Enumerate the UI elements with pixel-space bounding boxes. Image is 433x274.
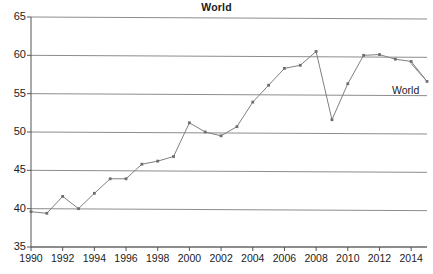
data-point-1994: [93, 192, 96, 195]
y-axis-label-65: 65: [0, 11, 26, 22]
x-axis-label-2006: 2006: [267, 253, 301, 264]
gridline-y-50: [31, 132, 427, 134]
x-axis-label-1994: 1994: [77, 253, 111, 264]
data-point-2013: [394, 58, 397, 61]
gridline-y-65: [31, 17, 427, 19]
data-point-2002: [220, 134, 223, 137]
data-point-1991: [45, 212, 48, 215]
y-axis-label-55: 55: [0, 88, 26, 99]
gridline-y-45: [31, 170, 427, 172]
data-point-2001: [204, 131, 207, 134]
x-axis-label-1992: 1992: [46, 253, 80, 264]
y-axis-label-40: 40: [0, 203, 26, 214]
y-axis-label-50: 50: [0, 126, 26, 137]
data-point-2003: [236, 125, 239, 128]
x-axis-label-2002: 2002: [204, 253, 238, 264]
x-axis-label-2008: 2008: [299, 253, 333, 264]
data-point-2004: [251, 101, 254, 104]
x-tick-marks-group: [31, 247, 411, 251]
x-axis-label-1996: 1996: [109, 253, 143, 264]
x-axis-label-2010: 2010: [331, 253, 365, 264]
x-axis-label-2000: 2000: [172, 253, 206, 264]
data-point-1990: [30, 210, 33, 213]
y-axis-label-45: 45: [0, 164, 26, 175]
chart-container: World 35404550556065 1990199219941996199…: [0, 0, 433, 274]
data-point-2006: [283, 67, 286, 70]
data-point-1993: [77, 207, 80, 210]
data-point-1995: [109, 177, 112, 180]
data-point-1998: [156, 160, 159, 163]
y-axis-label-35: 35: [0, 241, 26, 252]
x-axis-label-1990: 1990: [14, 253, 48, 264]
data-point-2011: [362, 54, 365, 57]
series-label-world: World: [392, 84, 419, 96]
series-label-leader-line: [411, 63, 427, 81]
gridline-y-55: [31, 94, 427, 96]
data-point-2009: [331, 118, 334, 121]
y-axis-label-60: 60: [0, 49, 26, 60]
data-point-1997: [140, 163, 143, 166]
data-point-1996: [125, 177, 128, 180]
data-point-2014: [410, 60, 413, 63]
gridline-y-40: [31, 209, 427, 211]
x-axis-label-2012: 2012: [362, 253, 396, 264]
data-point-2000: [188, 121, 191, 124]
data-point-2010: [346, 82, 349, 85]
x-axis-label-2014: 2014: [394, 253, 428, 264]
chart-plot-area: [0, 0, 433, 274]
data-point-2008: [315, 50, 318, 53]
data-point-2005: [267, 84, 270, 87]
data-point-1992: [61, 195, 64, 198]
data-point-2012: [378, 53, 381, 56]
x-axis-label-1998: 1998: [141, 253, 175, 264]
data-point-2007: [299, 64, 302, 67]
x-axis-label-2004: 2004: [236, 253, 270, 264]
data-point-1999: [172, 155, 175, 158]
